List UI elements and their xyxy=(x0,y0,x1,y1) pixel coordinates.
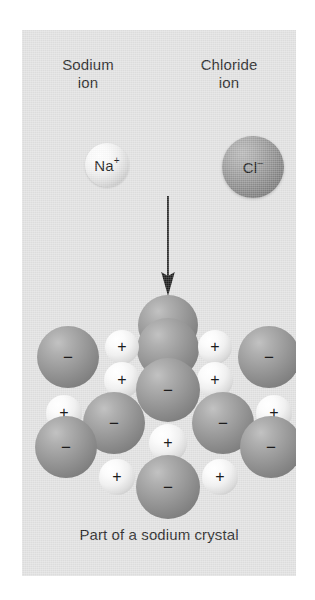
negative-charge-sign: − xyxy=(136,358,200,422)
sodium-symbol-text: Na xyxy=(94,157,114,174)
lattice-chloride-ion: − xyxy=(35,416,97,478)
chloride-symbol-text: Cl xyxy=(243,159,258,176)
lattice-chloride-ion: − xyxy=(37,326,99,388)
positive-charge-sign: + xyxy=(99,459,135,495)
positive-charge-sign: + xyxy=(105,330,139,364)
chloride-ion-label: Chloride ion xyxy=(168,56,290,92)
figure-root: Sodium ion Chloride ion Na+ Cl– ++−−++−+… xyxy=(0,0,315,600)
crystal-caption: Part of a sodium crystal xyxy=(22,526,296,543)
sodium-ion-sphere: Na+ xyxy=(85,143,129,187)
positive-charge-sign: + xyxy=(202,459,238,495)
negative-charge-sign: − xyxy=(136,455,200,519)
lattice-sodium-ion: + xyxy=(105,330,139,364)
negative-charge-sign: − xyxy=(35,416,97,478)
sodium-chloride-crystal-lattice: ++−−++−++−−−−+++− xyxy=(22,295,296,500)
lattice-chloride-ion: − xyxy=(136,455,200,519)
illustration-panel: Sodium ion Chloride ion Na+ Cl– ++−−++−+… xyxy=(22,30,296,576)
negative-charge-sign: − xyxy=(240,416,296,478)
lattice-chloride-ion: − xyxy=(136,358,200,422)
lattice-sodium-ion: + xyxy=(202,459,238,495)
down-arrow-icon xyxy=(153,196,183,296)
lattice-chloride-ion: − xyxy=(238,326,296,388)
lattice-chloride-ion: − xyxy=(240,416,296,478)
chloride-ion-symbol: Cl– xyxy=(222,136,284,198)
negative-charge-sign: − xyxy=(238,326,296,388)
lattice-sodium-ion: + xyxy=(99,459,135,495)
sodium-ion-symbol: Na+ xyxy=(85,143,129,187)
lattice-sodium-ion: + xyxy=(198,330,232,364)
negative-charge-sign: − xyxy=(37,326,99,388)
sodium-ion-label: Sodium ion xyxy=(28,56,148,92)
positive-charge-sign: + xyxy=(198,330,232,364)
chloride-ion-sphere: Cl– xyxy=(222,136,284,198)
